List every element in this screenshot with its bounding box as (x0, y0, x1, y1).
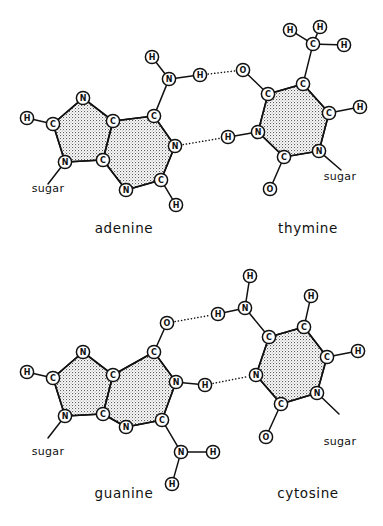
atom-label-aH6a: H (24, 114, 31, 123)
atom-aC2: C (154, 173, 167, 186)
atom-tO2: O (263, 182, 276, 195)
atom-tC4: C (261, 87, 274, 100)
atom-label-gC6: C (151, 348, 157, 357)
atom-label-gH2a: H (210, 448, 217, 457)
sugar-label-cytosine: sugar (324, 435, 357, 448)
atom-label-cC6: C (324, 353, 330, 362)
atom-label-tH7b: H (317, 23, 324, 32)
atom-aC4: C (96, 153, 109, 166)
atom-label-cH4a: H (247, 272, 254, 281)
atom-cN1: N (310, 386, 323, 399)
atom-label-gN2: N (178, 448, 185, 457)
atom-label-aN3: N (123, 186, 130, 195)
atom-tC7: C (306, 37, 319, 50)
bond-cC2-cO2 (269, 410, 279, 431)
atom-label-cH6: H (355, 347, 362, 356)
atom-label-cN1: N (314, 389, 321, 398)
atom-label-aC8: C (50, 120, 56, 129)
bond-tC7-tH7a (296, 33, 308, 40)
atom-label-cO2: O (263, 433, 270, 442)
bond-aC6-aN6 (156, 85, 166, 110)
atom-label-aN1: N (172, 142, 179, 151)
atom-label-cC2: C (278, 400, 284, 409)
atom-cH5: H (304, 289, 317, 302)
sugar-label-thymine: sugar (324, 170, 357, 183)
atom-gC2: C (155, 413, 168, 426)
atom-gH1: H (198, 378, 211, 391)
atom-tH7a: H (283, 23, 296, 36)
atom-cO2: O (259, 430, 272, 443)
atom-aH2: H (169, 198, 182, 211)
atom-label-cH4b: H (215, 310, 222, 319)
atom-cH6: H (351, 344, 364, 357)
atom-gC4: C (96, 407, 109, 420)
atom-gN7: N (76, 345, 89, 358)
atom-cN4: N (238, 301, 251, 314)
atom-aN9: N (58, 155, 71, 168)
atom-label-tH7a: H (287, 26, 294, 35)
bond-cC6-cH6 (333, 352, 351, 355)
atom-label-gC5: C (110, 371, 116, 380)
atom-label-aC2: C (158, 176, 164, 185)
atom-label-tC4: C (265, 90, 271, 99)
base-pair-adenine-thymine: HCNCCNCNCNHNHHCHHHCCHNCONCOHsugarsugarad… (20, 20, 366, 236)
atom-tN1: N (312, 144, 325, 157)
atom-label-gN9: N (62, 412, 69, 421)
atom-label-gH8a: H (24, 368, 31, 377)
atom-label-gN7: N (80, 348, 87, 357)
atom-label-aC5: C (110, 117, 116, 126)
atom-label-cH5: H (308, 292, 315, 301)
atom-tN3: N (251, 125, 264, 138)
bond-gH8a-gC8 (33, 373, 46, 376)
atom-label-cC5: C (301, 323, 307, 332)
bond-aN6-aH6c (176, 76, 194, 78)
atom-label-gC2: C (159, 416, 165, 425)
atom-aH6b: H (145, 50, 158, 63)
sugar-label-adenine: sugar (32, 182, 65, 195)
bond-to-sugar-thymine (324, 155, 341, 170)
atom-label-tH7c: H (341, 41, 348, 50)
atom-gO6: O (160, 316, 173, 329)
atom-tH3: H (221, 130, 234, 143)
hydrogen-bond-aN1-tH3 (183, 138, 220, 144)
bond-tC4-tO4 (248, 75, 263, 90)
atom-cC4: C (262, 330, 275, 343)
atom-gH2b: H (165, 477, 178, 490)
molecule-cytosine: NHHCCHCHNCON (211, 269, 364, 443)
atom-cC6: C (320, 350, 333, 363)
atom-label-aH2: H (173, 201, 180, 210)
atom-label-tN1: N (316, 147, 323, 156)
atom-label-aC6: C (151, 112, 157, 121)
atom-cC5: C (297, 320, 310, 333)
atom-label-aN9: N (62, 158, 69, 167)
base-pair-figure: HCNCCNCNCNHNHHCHHHCCHNCONCOHsugarsugarad… (0, 0, 383, 526)
atom-label-cC4: C (266, 333, 272, 342)
atom-tC2: C (277, 150, 290, 163)
bond-tC7-tC5 (305, 50, 312, 77)
base-name-label-thymine: thymine (278, 220, 338, 236)
atom-tH7b: H (313, 20, 326, 33)
atom-label-gO6: O (164, 319, 171, 328)
atom-label-cN3: N (253, 371, 260, 380)
atom-cH4b: H (211, 307, 224, 320)
atom-aH6a: H (20, 111, 33, 124)
atom-gC6: C (147, 345, 160, 358)
atom-label-tN3: N (255, 128, 262, 137)
atom-aN1: N (168, 139, 181, 152)
bond-gC2-gN2 (165, 426, 177, 447)
atom-cC2: C (274, 397, 287, 410)
atom-tH6: H (353, 100, 366, 113)
atom-label-aN7: N (80, 94, 87, 103)
atom-label-aH6b: H (149, 53, 156, 62)
bond-aC2-aH2 (164, 186, 172, 200)
atom-label-gC4: C (100, 410, 106, 419)
atom-gH8a: H (20, 365, 33, 378)
bond-gN1-gH1 (183, 383, 199, 385)
atom-label-tC5: C (300, 80, 306, 89)
bond-gN2-gH2b (174, 458, 179, 477)
atom-label-gH2b: H (169, 480, 176, 489)
atom-label-tC2: C (281, 153, 287, 162)
atom-label-tC6: C (326, 109, 332, 118)
bond-tC7-tH7b (316, 33, 318, 38)
atom-label-gC8: C (50, 374, 56, 383)
